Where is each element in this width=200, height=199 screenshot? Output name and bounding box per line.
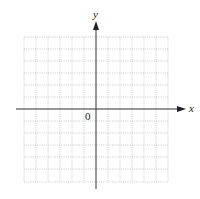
origin-label: 0 (85, 111, 91, 122)
y-axis (93, 21, 99, 189)
x-axis (16, 106, 186, 112)
y-axis-arrow-icon (93, 21, 99, 30)
x-axis-arrow-icon (177, 106, 186, 112)
x-axis-label: x (189, 103, 194, 114)
coordinate-plane (0, 0, 200, 199)
y-axis-label: y (93, 9, 98, 20)
